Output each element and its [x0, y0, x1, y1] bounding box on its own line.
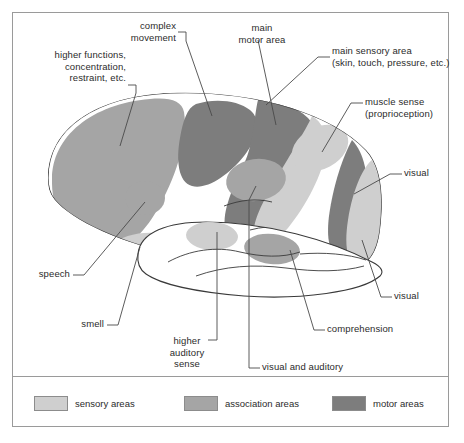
legend-label-association: association areas: [225, 398, 299, 409]
label-smell: smell: [60, 318, 104, 330]
label-visual-lower: visual: [394, 290, 438, 302]
legend-item-sensory-areas: sensory areas: [34, 396, 135, 411]
legend-label-sensory: sensory areas: [75, 398, 135, 409]
label-muscle-sense: muscle sense (proprioception): [365, 96, 461, 119]
legend-label-motor: motor areas: [373, 398, 424, 409]
label-complex-movement: complex movement: [104, 20, 176, 43]
label-visual-upper: visual: [404, 167, 448, 179]
label-main-motor-area: main motor area: [231, 22, 293, 45]
brain-diagram-figure: higher functions, concentration, restrai…: [0, 0, 464, 443]
label-main-sensory-area: main sensory area (skin, touch, pressure…: [332, 45, 462, 68]
label-visual-and-auditory: visual and auditory: [262, 361, 368, 373]
label-higher-auditory-sense: higher auditory sense: [160, 335, 214, 370]
label-speech: speech: [22, 268, 70, 280]
label-comprehension: comprehension: [327, 323, 415, 335]
legend-item-motor-areas: motor areas: [332, 396, 424, 411]
legend-swatch-motor: [332, 396, 366, 411]
label-higher-functions: higher functions, concentration, restrai…: [20, 49, 126, 84]
legend: sensory areas association areas motor ar…: [12, 382, 449, 427]
legend-item-association-areas: association areas: [184, 396, 299, 411]
legend-swatch-association: [184, 396, 218, 411]
legend-swatch-sensory: [34, 396, 68, 411]
legend-divider: [12, 376, 449, 377]
